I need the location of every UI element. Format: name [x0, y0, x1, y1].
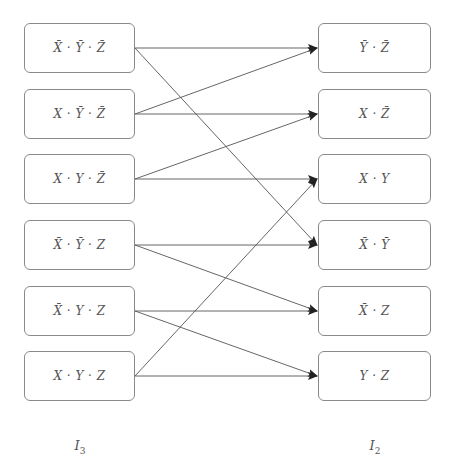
right-node-1: Ȳ · Z̄ — [318, 23, 431, 73]
edge-L6-R3 — [135, 179, 317, 376]
left-node-1: X̄ · Ȳ · Z̄ — [24, 23, 135, 73]
left-node-5: X̄ · Y · Z — [24, 286, 135, 336]
left-node-4: X̄ · Ȳ · Z — [24, 220, 135, 270]
right-node-2: X · Z̄ — [318, 89, 431, 139]
right-node-4: X̄ · Ȳ — [318, 220, 431, 270]
left-node-6: X · Y · Z — [24, 351, 135, 401]
edge-L2-R1 — [135, 48, 317, 114]
left-node-3: X · Y · Z̄ — [24, 154, 135, 204]
right-column-label: I2 — [355, 438, 395, 456]
right-node-3: X · Y — [318, 154, 431, 204]
left-column-label: I3 — [60, 438, 100, 456]
right-node-6: Y · Z — [318, 351, 431, 401]
edge-L5-R6 — [135, 311, 317, 376]
right-node-5: X̄ · Z — [318, 286, 431, 336]
edge-L3-R2 — [135, 114, 317, 179]
implicant-diagram: X̄ · Ȳ · Z̄ X · Ȳ · Z̄ X · Y · Z̄ X̄ · Ȳ… — [0, 0, 455, 465]
left-node-2: X · Ȳ · Z̄ — [24, 89, 135, 139]
left-label-sub: 3 — [80, 446, 86, 456]
right-label-sub: 2 — [375, 446, 381, 456]
